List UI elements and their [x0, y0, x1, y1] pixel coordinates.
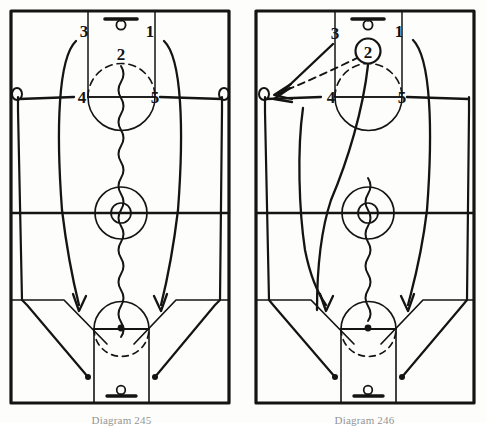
player-label-4: 4	[327, 88, 336, 107]
bottom-ft-circle-dashed	[341, 329, 396, 357]
player-label-5: 5	[151, 88, 160, 107]
dribble-path-2	[119, 66, 124, 337]
court-svg-246: 3 1 2 4 5	[243, 0, 486, 423]
cut-path-5	[402, 97, 469, 377]
player-label-1: 1	[395, 22, 404, 41]
cut-path-4	[18, 97, 88, 377]
wing-line-right	[407, 97, 469, 99]
player-label-3: 3	[331, 24, 340, 43]
cut-path-3-continue	[299, 108, 326, 305]
cut-endpoint-5	[399, 374, 405, 380]
court-boundary	[11, 11, 229, 403]
cut-arrowhead-3-continue	[320, 294, 333, 311]
player-label-2: 2	[117, 45, 126, 64]
dribble-path-2	[366, 178, 371, 321]
cut-path-1	[408, 40, 430, 305]
court-svg-245: 3 1 2 4 5	[0, 0, 243, 423]
player-label-3: 3	[80, 22, 89, 41]
player-label-5: 5	[398, 88, 407, 107]
wing-line-left	[19, 97, 74, 99]
diagram-caption-246: Diagram 246	[243, 414, 486, 426]
diagram-panel-246: 3 1 2 4 5 Diagram 246	[243, 0, 486, 423]
cut-endpoint-4	[332, 374, 338, 380]
cut-path-1	[161, 41, 181, 305]
player-label-1: 1	[146, 22, 155, 41]
cut-path-5	[155, 97, 222, 377]
player-label-2: 2	[364, 43, 373, 62]
pass-path-2	[277, 57, 359, 94]
cut-endpoint-4	[85, 374, 91, 380]
diagram-caption-245: Diagram 245	[0, 414, 243, 426]
bottom-ft-circle-dashed	[94, 329, 149, 356]
wing-line-right	[160, 97, 222, 99]
dribble-endpoint-2	[365, 325, 372, 332]
dribble-endpoint-2	[118, 325, 125, 332]
court-boundary	[256, 11, 474, 403]
bottom-rim-icon	[117, 386, 126, 395]
player-label-4: 4	[78, 88, 87, 107]
top-ft-circle-solid	[335, 97, 402, 131]
cut-path-3	[59, 41, 79, 305]
cut-endpoint-5	[152, 374, 158, 380]
wing-line-left	[266, 97, 321, 99]
bottom-rim-icon	[364, 386, 373, 395]
diagram-panel-245: 3 1 2 4 5 Diagram 245	[0, 0, 243, 423]
